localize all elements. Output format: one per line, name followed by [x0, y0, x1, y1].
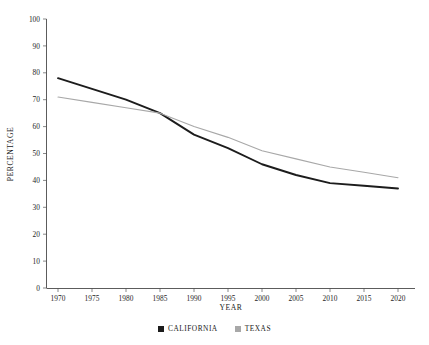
x-tick-label: 2010 — [323, 294, 338, 303]
y-tick-label: 10 — [33, 257, 41, 266]
x-tick-label: 1990 — [187, 294, 202, 303]
x-axis-title: YEAR — [220, 303, 243, 312]
x-tick-label: 2020 — [391, 294, 406, 303]
legend-item-california: CALIFORNIA — [158, 324, 218, 333]
chart-legend: CALIFORNIA TEXAS — [0, 324, 429, 333]
x-tick-label: 2005 — [289, 294, 304, 303]
legend-label-california: CALIFORNIA — [168, 324, 218, 333]
y-tick-label: 90 — [33, 42, 41, 51]
legend-label-texas: TEXAS — [245, 324, 271, 333]
x-tick-label: 1975 — [85, 294, 100, 303]
y-axis-ticks: 0102030405060708090100 — [29, 15, 47, 293]
x-tick-label: 1995 — [221, 294, 236, 303]
legend-swatch-texas — [235, 326, 241, 332]
x-tick-label: 1985 — [153, 294, 168, 303]
x-tick-label: 1980 — [119, 294, 134, 303]
y-tick-label: 20 — [33, 230, 41, 239]
y-axis-title: PERCENTAGE — [6, 127, 15, 181]
y-tick-label: 40 — [33, 176, 41, 185]
series-line-california — [58, 78, 398, 188]
x-tick-label: 2015 — [357, 294, 372, 303]
x-tick-label: 1970 — [51, 294, 66, 303]
x-axis-ticks: 1970197519801985199019952000200520102015… — [51, 289, 406, 304]
chart-canvas: 0102030405060708090100 19701975198019851… — [0, 0, 429, 345]
series-line-texas — [58, 97, 398, 178]
series-lines — [58, 78, 398, 188]
y-tick-label: 60 — [33, 122, 41, 131]
x-tick-label: 2000 — [255, 294, 270, 303]
legend-item-texas: TEXAS — [235, 324, 271, 333]
y-tick-label: 30 — [33, 203, 41, 212]
y-tick-label: 70 — [33, 95, 41, 104]
y-tick-label: 80 — [33, 68, 41, 77]
y-tick-label: 100 — [29, 15, 40, 24]
y-tick-label: 50 — [33, 149, 41, 158]
y-tick-label: 0 — [36, 284, 40, 293]
legend-swatch-california — [158, 326, 164, 332]
line-chart: 0102030405060708090100 19701975198019851… — [0, 0, 429, 345]
